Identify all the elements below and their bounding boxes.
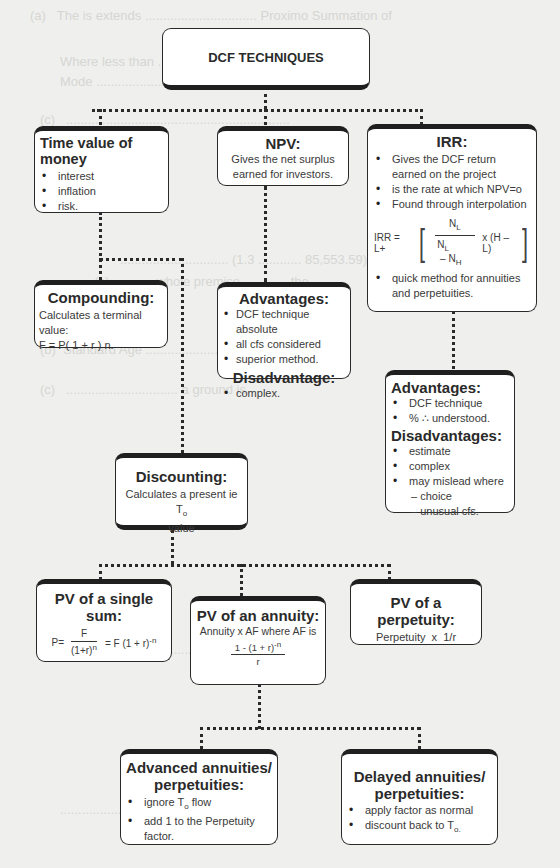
connector-to-irr — [420, 109, 423, 125]
connector-time-to-discount — [99, 258, 183, 261]
connector-to-delayed — [418, 727, 421, 749]
advanced-list: ignore To flow add 1 to the Perpetuity f… — [126, 795, 272, 844]
list-item: is the rate at which NPV=o — [374, 182, 530, 197]
delayed-title-1: Delayed annuities/ — [347, 768, 492, 785]
connector-root-down — [264, 87, 267, 109]
list-item: complex — [391, 459, 509, 474]
delayed-annuities-box: Delayed annuities/ perpetuities: apply f… — [341, 749, 498, 845]
list-item: inflation — [40, 184, 163, 199]
right-bracket-icon: ] — [522, 225, 528, 261]
discounting-text-1: Calculates a present ie To — [120, 487, 243, 521]
pv-single-sum-box: PV of a single sum: P= F (1+r)n = F (1 +… — [36, 579, 172, 662]
list-item: all cfs considered — [222, 337, 346, 352]
irr-box: IRR: Gives the DCF return earned on the … — [367, 124, 537, 312]
irr-formula: IRR = L+ [ NL NL – NH x (H – L) ] — [374, 218, 530, 267]
discounting-text-2: value — [120, 521, 243, 536]
pv-single-formula: P= F (1+r)n = F (1 + r)-n — [41, 628, 167, 656]
connector-to-discounting — [181, 258, 184, 453]
list-item: risk. — [40, 199, 163, 214]
npv-advantages-box: Advantages: DCF technique absolute all c… — [217, 282, 351, 379]
list-item: % ∴ understood. — [391, 411, 509, 426]
connector-annuity-down — [258, 684, 261, 729]
connector-to-pv-perpetuity — [388, 564, 391, 580]
list-item: apply factor as normal — [347, 803, 492, 818]
time-value-title: Time value of money — [40, 135, 163, 167]
advanced-annuities-box: Advanced annuities/ perpetuities: ignore… — [120, 749, 278, 845]
list-item: add 1 to the Perpetuity factor. — [126, 814, 272, 844]
connector-to-time-value — [99, 109, 102, 125]
npv-adv-title: Advantages: — [222, 290, 346, 307]
connector-bottom-row — [200, 727, 420, 730]
left-bracket-icon: [ — [419, 225, 425, 261]
connector-to-advanced — [200, 727, 203, 749]
list-item: quick method for annuities and perpetuit… — [374, 271, 530, 301]
irr-dis-list: estimate complex may mislead where — [391, 444, 509, 489]
npv-title: NPV: — [226, 135, 340, 152]
list-item: estimate — [391, 444, 509, 459]
irr-formula-lhs: IRR = L+ — [374, 232, 413, 254]
pv-perpetuity-box: PV of a perpetuity: Perpetuity x 1/r — [350, 579, 482, 645]
irr-adv-title: Advantages: — [391, 379, 509, 396]
connector-top-row — [92, 109, 423, 112]
irr-dis-title: Disadvantages: — [391, 427, 509, 444]
list-item: Gives the DCF return earned on the proje… — [374, 152, 530, 182]
time-value-list: interest inflation risk. — [40, 169, 163, 214]
irr-title: IRR: — [374, 133, 530, 150]
irr-dis-sub-2: – unusual cfs. — [391, 504, 509, 519]
connector-to-pv-single — [99, 564, 102, 580]
compounding-title: Compounding: — [39, 289, 163, 306]
connector-npv-to-adv — [264, 186, 267, 282]
advanced-title-2: perpetuities: — [126, 776, 272, 793]
pv-perpetuity-title: PV of a perpetuity: — [354, 594, 478, 628]
irr-list-2: quick method for annuities and perpetuit… — [374, 271, 530, 301]
delayed-list: apply factor as normal discount back to … — [347, 803, 492, 837]
compounding-text-2: F = P( 1 + r ) n. — [39, 338, 163, 353]
irr-formula-tail: x (H – L) — [482, 232, 520, 254]
npv-text-1: Gives the net surplus — [226, 152, 340, 167]
list-item: superior method. — [222, 352, 346, 367]
list-item: DCF technique absolute — [222, 307, 346, 337]
list-item: Found through interpolation — [374, 197, 530, 212]
pv-perpetuity-text: Perpetuity x 1/r — [354, 630, 478, 645]
list-item: complex. — [222, 386, 346, 401]
pv-single-title: PV of a single sum: — [41, 590, 167, 624]
npv-box: NPV: Gives the net surplus earned for in… — [217, 126, 349, 186]
time-value-box: Time value of money interest inflation r… — [34, 126, 169, 213]
connector-pv-row — [99, 564, 390, 567]
connector-to-pv-annuity — [240, 564, 243, 596]
irr-fraction: NL NL – NH — [433, 218, 476, 267]
dcf-techniques-box: DCF TECHNIQUES — [162, 28, 370, 90]
npv-adv-list: DCF technique absolute all cfs considere… — [222, 307, 346, 367]
compounding-text-1: Calculates a terminal value: — [39, 308, 163, 338]
advanced-title-1: Advanced annuities/ — [126, 759, 272, 776]
npv-dis-title: Disadvantage: — [222, 369, 346, 386]
list-item: ignore To flow — [126, 795, 272, 814]
npv-text-2: earned for investors. — [226, 167, 340, 182]
irr-dis-sub-1: – choice — [391, 489, 509, 504]
connector-to-npv — [264, 109, 267, 125]
compounding-box: Compounding: Calculates a terminal value… — [34, 280, 168, 348]
pv-annuity-formula: 1 - (1 + r)-n r — [194, 640, 322, 667]
list-item: discount back to To. — [347, 818, 492, 837]
pv-annuity-title: PV of an annuity: — [194, 607, 322, 624]
pv-annuity-box: PV of an annuity: Annuity x AF where AF … — [190, 596, 326, 685]
discounting-title: Discounting: — [120, 468, 243, 485]
pv-annuity-text: Annuity x AF where AF is — [194, 624, 322, 639]
irr-advantages-box: Advantages: DCF technique % ∴ understood… — [385, 370, 515, 513]
delayed-title-2: perpetuities: — [347, 785, 492, 802]
list-item: interest — [40, 169, 163, 184]
connector-irr-to-adv — [452, 311, 455, 369]
npv-dis-list: complex. — [222, 386, 346, 401]
connector-time-value-down — [99, 212, 102, 280]
root-title: DCF TECHNIQUES — [208, 50, 324, 65]
discounting-box: Discounting: Calculates a present ie To … — [115, 453, 248, 530]
list-item: may mislead where — [391, 474, 509, 489]
irr-list: Gives the DCF return earned on the proje… — [374, 152, 530, 212]
list-item: DCF technique — [391, 396, 509, 411]
irr-adv-list: DCF technique % ∴ understood. — [391, 396, 509, 426]
